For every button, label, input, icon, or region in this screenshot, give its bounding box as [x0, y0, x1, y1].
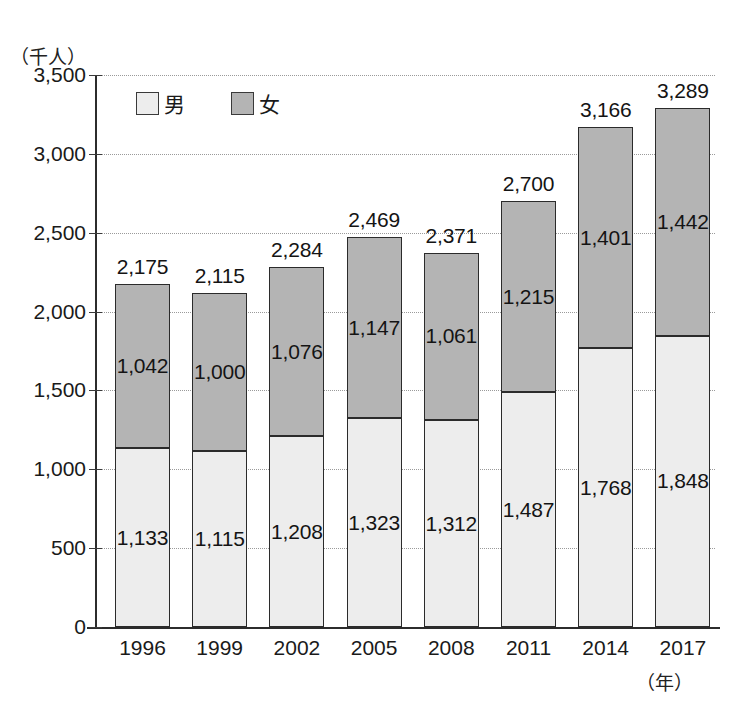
bar-segment-male[interactable]: 1,115 [192, 451, 247, 627]
bar-total-label: 2,371 [426, 224, 478, 248]
bar-segment-female[interactable]: 1,442 [655, 108, 710, 335]
bar-total-label: 2,115 [195, 264, 245, 288]
bar-segment-value-male: 1,208 [271, 520, 323, 544]
y-axis-tick [89, 312, 102, 313]
bar-segment-value-female: 1,147 [348, 316, 400, 340]
bar-segment-value-male: 1,487 [503, 498, 555, 522]
bar-segment-female[interactable]: 1,061 [424, 253, 479, 420]
legend-label: 女 [259, 88, 280, 118]
x-axis-tick-label: 1999 [182, 636, 257, 660]
bar-segment-male[interactable]: 1,768 [578, 348, 633, 627]
y-axis-tick-label: 2,000 [0, 300, 86, 324]
gridline [96, 75, 715, 76]
bar-segment-female[interactable]: 1,000 [192, 293, 247, 451]
bar-segment-male[interactable]: 1,323 [347, 418, 402, 627]
bar-segment-value-male: 1,133 [117, 526, 169, 550]
x-axis-tick-label: 2002 [259, 636, 334, 660]
bar-group[interactable]: 1,7681,4013,166 [578, 127, 633, 627]
y-axis-tick [89, 233, 102, 234]
legend-label: 男 [164, 88, 185, 118]
y-axis-line [95, 75, 97, 628]
bar-group[interactable]: 1,8481,4423,289 [655, 108, 710, 627]
x-axis-tick-label: 2005 [337, 636, 412, 660]
bar-segment-female[interactable]: 1,076 [269, 267, 324, 437]
bar-total-label: 2,175 [117, 255, 169, 279]
bar-total-label: 3,166 [580, 98, 632, 122]
y-axis-tick [89, 627, 102, 628]
bar-segment-female[interactable]: 1,147 [347, 237, 402, 418]
x-axis-tick-label: 2008 [414, 636, 489, 660]
bar-segment-male[interactable]: 1,487 [501, 392, 556, 627]
y-axis-tick [89, 390, 102, 391]
bar-segment-male[interactable]: 1,133 [115, 448, 170, 627]
bar-group[interactable]: 1,2081,0762,284 [269, 267, 324, 627]
bar-group[interactable]: 1,3231,1472,469 [347, 237, 402, 627]
bar-total-label: 3,289 [657, 79, 709, 103]
y-axis-tick-label: 1,500 [0, 378, 86, 402]
bar-segment-value-female: 1,215 [503, 285, 555, 309]
bar-segment-value-female: 1,042 [117, 354, 169, 378]
bar-segment-value-female: 1,442 [657, 210, 709, 234]
bar-segment-female[interactable]: 1,042 [115, 284, 170, 448]
stacked-bar-chart: （千人） （年） 1,1331,0422,1751,1151,0002,1151… [0, 0, 747, 717]
bar-total-label: 2,469 [348, 208, 400, 232]
y-axis-tick-label: 3,500 [0, 63, 86, 87]
bar-segment-female[interactable]: 1,215 [501, 201, 556, 393]
bar-segment-value-male: 1,323 [348, 511, 400, 535]
bar-segment-value-male: 1,115 [195, 527, 245, 551]
bar-group[interactable]: 1,4871,2152,700 [501, 201, 556, 627]
bar-segment-value-female: 1,076 [271, 340, 323, 364]
y-axis-tick [89, 75, 102, 76]
y-axis-tick [89, 469, 102, 470]
bar-group[interactable]: 1,1151,0002,115 [192, 293, 247, 627]
x-axis-tick-label: 2011 [491, 636, 566, 660]
bar-group[interactable]: 1,3121,0612,371 [424, 253, 479, 627]
bar-segment-male[interactable]: 1,208 [269, 436, 324, 627]
bar-segment-value-male: 1,768 [580, 476, 632, 500]
chart-legend: 男女 [136, 88, 280, 118]
bar-segment-female[interactable]: 1,401 [578, 127, 633, 348]
y-axis-tick-label: 1,000 [0, 457, 86, 481]
y-axis-tick-labels: 05001,0001,5002,0002,5003,0003,500 [0, 0, 86, 717]
x-axis-tick-label: 1996 [105, 636, 180, 660]
legend-swatch-female-icon [231, 92, 254, 115]
bar-segment-value-male: 1,312 [426, 512, 478, 536]
y-axis-tick [89, 548, 102, 549]
bar-segment-value-male: 1,848 [657, 469, 709, 493]
bar-segment-value-female: 1,061 [426, 324, 478, 348]
plot-area: 1,1331,0422,1751,1151,0002,1151,2081,076… [96, 75, 715, 627]
bar-segment-male[interactable]: 1,848 [655, 336, 710, 627]
bar-total-label: 2,284 [271, 238, 323, 262]
bar-segment-male[interactable]: 1,312 [424, 420, 479, 627]
legend-item[interactable]: 男 [136, 88, 185, 118]
y-axis-tick-label: 500 [0, 536, 86, 560]
bar-segment-value-female: 1,401 [580, 226, 632, 250]
y-axis-tick-label: 0 [0, 615, 86, 639]
x-axis-line [87, 627, 720, 629]
bar-segment-value-female: 1,000 [194, 360, 246, 384]
bar-total-label: 2,700 [503, 172, 555, 196]
y-axis-tick [89, 154, 102, 155]
y-axis-tick-label: 3,000 [0, 142, 86, 166]
bar-group[interactable]: 1,1331,0422,175 [115, 284, 170, 627]
legend-swatch-male-icon [136, 92, 159, 115]
legend-item[interactable]: 女 [231, 88, 280, 118]
x-axis-tick-label: 2014 [568, 636, 643, 660]
x-axis-unit-label: （年） [636, 668, 693, 695]
x-axis-tick-label: 2017 [645, 636, 720, 660]
y-axis-tick-label: 2,500 [0, 221, 86, 245]
